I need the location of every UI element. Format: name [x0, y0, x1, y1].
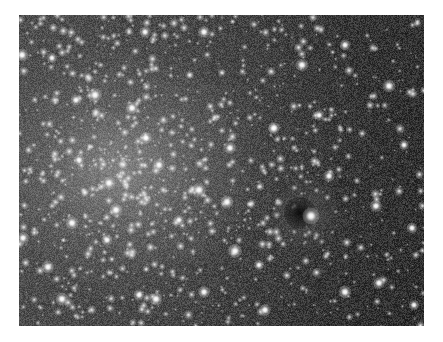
bright-star: [296, 59, 309, 72]
bright-star: [126, 102, 139, 115]
bright-star: [221, 196, 234, 209]
bright-star: [383, 80, 396, 93]
bright-star: [224, 142, 236, 154]
bright-star: [47, 53, 57, 63]
bright-star: [153, 159, 165, 171]
bright-star: [303, 208, 320, 225]
bright-star: [254, 260, 264, 270]
bright-star: [110, 204, 123, 217]
bright-star: [228, 244, 242, 258]
bright-star: [150, 293, 163, 306]
bright-star: [103, 177, 116, 190]
bright-star: [407, 223, 418, 234]
bright-star: [74, 155, 85, 166]
bright-star: [259, 304, 271, 316]
bright-star: [66, 217, 79, 230]
bright-star: [198, 26, 210, 38]
bright-star: [140, 132, 152, 144]
bright-star: [339, 286, 352, 299]
bright-star: [370, 200, 382, 212]
bright-star: [42, 261, 55, 274]
bright-star: [102, 235, 113, 246]
bright-star: [174, 215, 184, 225]
bright-star: [140, 27, 151, 38]
bright-star: [409, 300, 419, 310]
star-field-canvas: [19, 15, 424, 326]
star-cluster-image: [19, 15, 424, 326]
bright-star: [71, 95, 82, 106]
bright-star: [198, 286, 210, 298]
bright-star: [373, 277, 385, 289]
bright-star: [192, 183, 206, 197]
bright-star: [324, 171, 335, 182]
bright-star: [314, 110, 324, 120]
bright-star: [268, 122, 280, 134]
bright-star: [340, 40, 351, 51]
bright-star: [134, 290, 145, 301]
bright-star: [56, 293, 69, 306]
bright-star: [399, 140, 409, 150]
bright-star: [88, 88, 102, 102]
